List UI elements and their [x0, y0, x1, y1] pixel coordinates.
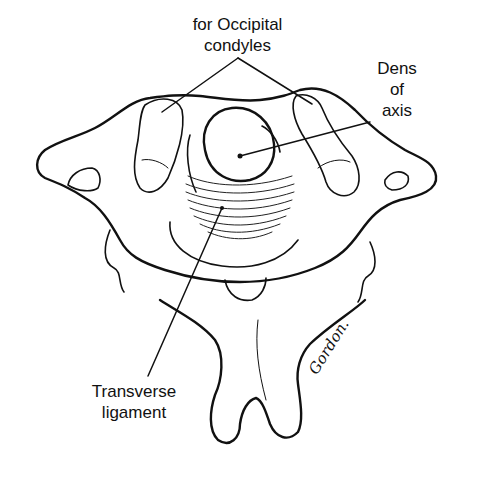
label-transverse-line2: ligament — [74, 402, 194, 423]
leader-dens-dot — [238, 154, 243, 159]
label-occipital-line1: for Occipital — [150, 14, 325, 35]
transverse-ligament-hatching — [186, 176, 294, 239]
label-transverse-ligament: Transverse ligament — [74, 381, 194, 423]
right-occipital-facet — [293, 95, 359, 196]
leader-transverse-dot — [220, 206, 224, 210]
label-dens-of-axis: Dens of axis — [362, 58, 432, 121]
axis-midline — [257, 320, 266, 400]
label-dens-line2: of — [362, 79, 432, 100]
left-foramen-transversarium — [68, 168, 100, 191]
right-facet-detail — [318, 160, 350, 168]
axis-left-lateral — [105, 230, 124, 292]
right-foramen-transversarium — [385, 172, 409, 190]
dens-of-axis — [204, 108, 274, 181]
label-dens-line1: Dens — [362, 58, 432, 79]
leader-dens — [240, 122, 370, 156]
leader-transverse — [148, 208, 222, 376]
label-occipital-line2: condyles — [150, 35, 325, 56]
anterior-arch-inner — [188, 135, 196, 192]
leader-occipital-left — [162, 58, 238, 112]
posterior-arch — [170, 222, 298, 267]
left-occipital-facet — [135, 99, 183, 192]
axis-right-lateral — [358, 242, 375, 302]
label-occipital-condyles: for Occipital condyles — [150, 14, 325, 56]
left-facet-detail — [142, 159, 168, 168]
label-dens-line3: axis — [362, 100, 432, 121]
label-transverse-line1: Transverse — [74, 381, 194, 402]
